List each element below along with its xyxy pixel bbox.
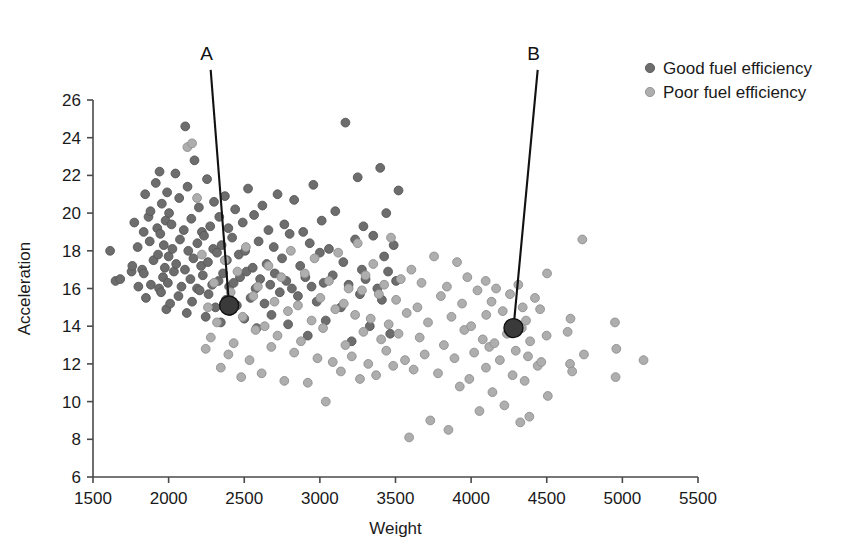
data-point (167, 220, 176, 229)
y-tick-label: 16 (62, 280, 81, 299)
data-point (182, 309, 191, 318)
data-point (413, 303, 422, 312)
data-point (176, 235, 185, 244)
data-point (264, 261, 273, 270)
data-point (351, 310, 360, 319)
legend-marker-poor (645, 87, 654, 96)
data-point (228, 233, 237, 242)
data-point (508, 371, 517, 380)
data-point (264, 226, 273, 235)
data-point (193, 194, 202, 203)
data-point (147, 280, 156, 289)
data-point (194, 203, 203, 212)
data-point (331, 305, 340, 314)
data-point (284, 307, 293, 316)
data-point (434, 369, 443, 378)
data-point (195, 286, 204, 295)
data-point (543, 269, 552, 278)
x-tick-label: 2500 (225, 489, 263, 508)
data-point (210, 197, 219, 206)
data-point (242, 243, 251, 252)
data-point (130, 218, 139, 227)
annotation-label-a: A (200, 43, 213, 64)
data-point (179, 226, 188, 235)
data-point (536, 305, 545, 314)
data-point (490, 339, 499, 348)
data-point (267, 343, 276, 352)
data-point (172, 260, 181, 269)
data-point (231, 205, 240, 214)
data-point (166, 299, 175, 308)
data-point (364, 360, 373, 369)
data-point (171, 169, 180, 178)
x-tick-label: 1500 (74, 489, 112, 508)
data-point (321, 397, 330, 406)
data-point (424, 318, 433, 327)
data-point (463, 273, 472, 282)
data-point (358, 286, 367, 295)
data-point (224, 350, 233, 359)
data-point (198, 250, 207, 259)
data-point (331, 207, 340, 216)
data-point (277, 273, 286, 282)
data-point (313, 354, 322, 363)
data-point (511, 346, 520, 355)
data-point (369, 260, 378, 269)
data-point (402, 309, 411, 318)
data-point (155, 167, 164, 176)
data-point (401, 356, 410, 365)
data-point (213, 318, 222, 327)
data-point (409, 365, 418, 374)
annotation-label-b: B (527, 43, 540, 64)
data-point (470, 348, 479, 357)
legend-label-poor: Poor fuel efficiency (663, 83, 807, 102)
data-point (382, 346, 391, 355)
data-point (305, 239, 314, 248)
data-point (303, 378, 312, 387)
data-point (520, 376, 529, 385)
data-point (394, 329, 403, 338)
data-point (238, 218, 247, 227)
data-point (336, 367, 345, 376)
data-point (309, 180, 318, 189)
highlight-marker-b[interactable] (504, 319, 523, 338)
data-point (280, 376, 289, 385)
data-point (334, 248, 343, 257)
data-point (389, 361, 398, 370)
data-point (198, 271, 207, 280)
data-point (139, 228, 148, 237)
data-point (317, 216, 326, 225)
data-point (159, 241, 168, 250)
x-tick-label: 4500 (528, 489, 566, 508)
data-point (290, 348, 299, 357)
data-point (566, 314, 575, 323)
data-point (233, 267, 242, 276)
data-point (257, 369, 266, 378)
data-point (188, 139, 197, 148)
highlight-marker-a[interactable] (220, 296, 239, 315)
data-point (394, 186, 403, 195)
y-tick-label: 14 (62, 317, 81, 336)
data-point (475, 407, 484, 416)
data-point (359, 222, 368, 231)
data-point (168, 245, 177, 254)
data-point (353, 239, 362, 248)
data-point (163, 278, 172, 287)
data-point (492, 284, 501, 293)
data-point (139, 269, 148, 278)
data-point (374, 290, 383, 299)
data-point (611, 318, 620, 327)
data-point (229, 339, 238, 348)
data-point (392, 295, 401, 304)
data-point (156, 229, 165, 238)
data-point (339, 258, 348, 267)
data-point (154, 250, 163, 259)
scatter-chart: 6810121416182022242615002000250030003500… (0, 0, 865, 558)
data-point (341, 118, 350, 127)
data-point (310, 254, 319, 263)
data-point (325, 245, 334, 254)
data-point (481, 277, 490, 286)
scatter-plot-figure: 6810121416182022242615002000250030003500… (0, 0, 865, 558)
data-point (163, 188, 172, 197)
data-point (142, 294, 151, 303)
